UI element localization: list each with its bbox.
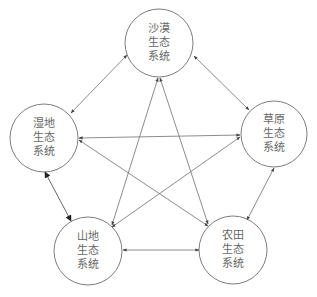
label-line: 生态 <box>203 243 263 257</box>
edge-wetland-farmland <box>79 140 208 226</box>
edge-grassland-mountain <box>112 137 240 227</box>
label-line: 山地 <box>58 230 118 244</box>
label-line: 沙漠 <box>129 22 189 36</box>
node-label-desert: 沙漠 生态 系统 <box>129 22 189 64</box>
edge-desert-farmland <box>160 78 208 224</box>
label-line: 湿地 <box>14 117 74 131</box>
label-line: 生态 <box>129 36 189 50</box>
label-line: 草原 <box>244 113 304 127</box>
edge-wetland-grassland <box>79 135 240 138</box>
edge-desert-mountain <box>112 78 158 225</box>
label-line: 生态 <box>244 127 304 141</box>
edge-desert-wetland <box>71 55 127 113</box>
node-label-mountain: 山地 生态 系统 <box>58 230 118 272</box>
label-line: 农田 <box>203 229 263 243</box>
label-line: 生态 <box>58 244 118 258</box>
label-line: 系统 <box>129 50 189 64</box>
edge-grassland-farmland <box>247 168 274 220</box>
node-label-farmland: 农田 生态 系统 <box>203 229 263 271</box>
label-line: 系统 <box>244 141 304 155</box>
label-line: 系统 <box>203 257 263 271</box>
node-label-grassland: 草原 生态 系统 <box>244 113 304 155</box>
edge-desert-grassland <box>194 56 249 110</box>
label-line: 系统 <box>58 258 118 272</box>
edge-wetland-mountain <box>45 172 71 221</box>
label-line: 系统 <box>14 145 74 159</box>
node-label-wetland: 湿地 生态 系统 <box>14 117 74 159</box>
label-line: 生态 <box>14 131 74 145</box>
